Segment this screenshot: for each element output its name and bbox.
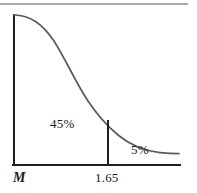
x-axis-origin-label-M: M xyxy=(13,171,26,185)
normal-curve-figure: 45% 5% M 1.65 xyxy=(0,0,197,193)
x-axis-tick-label-1.65: 1.65 xyxy=(95,171,119,184)
normal-distribution-curve xyxy=(14,15,179,154)
figure-canvas xyxy=(0,0,197,193)
region-label-5-percent: 5% xyxy=(131,143,149,156)
region-label-45-percent: 45% xyxy=(50,117,74,130)
